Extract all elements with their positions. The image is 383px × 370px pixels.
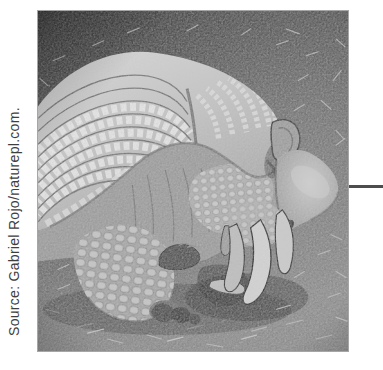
figure-panel: Source: Gabriel Rojo/naturepl.com. (0, 0, 383, 370)
photo-credit: Source: Gabriel Rojo/naturepl.com. (6, 107, 22, 336)
armadillo-photo (37, 10, 349, 352)
photo-grain-overlay (38, 11, 348, 351)
armadillo-photo-illustration (38, 11, 348, 351)
photo-credit-text: Source: Gabriel Rojo/naturepl.com. (6, 107, 22, 336)
figure-leader-line (349, 185, 383, 188)
